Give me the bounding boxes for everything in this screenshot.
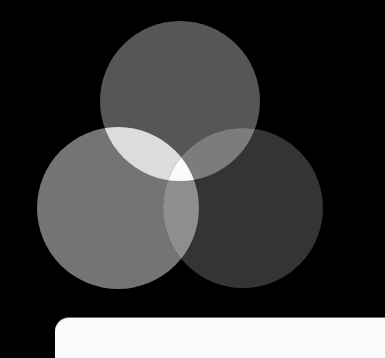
bottom-panel [55,318,385,358]
